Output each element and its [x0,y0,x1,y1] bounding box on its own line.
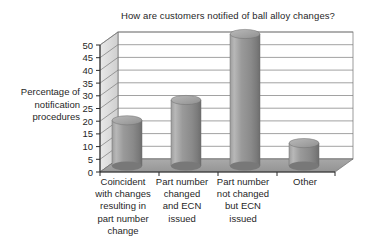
y-tick-marks [96,45,100,172]
x-category-label-other: Other [266,176,344,188]
y-tick-label: 5 [88,154,93,165]
y-tick-label: 25 [82,103,93,114]
bar-part-number-not-changed-but-ecn-issued[interactable] [230,29,260,170]
cat-line: issued [204,213,282,225]
bar-other[interactable] [289,139,319,171]
chart-container: How are customers notified of ball alloy… [0,0,368,248]
y-tick-label: 15 [82,128,93,139]
y-tick-labels: 50 45 40 35 30 25 20 15 10 5 0 [82,40,93,178]
y-tick-label: 20 [82,116,93,127]
y-tick-label: 10 [82,141,93,152]
x-axis-category-labels: Coincident with changes resulting in par… [88,176,368,248]
bar-coincident-with-changes[interactable] [112,116,142,171]
y-tick-label: 30 [82,90,93,101]
cat-line: change [83,225,163,237]
cat-line: but ECN [204,200,282,212]
bar-part-number-changed-and-ecn-issued[interactable] [171,95,201,170]
y-tick-label: 40 [82,65,93,76]
y-tick-label: 35 [82,78,93,89]
y-tick-label: 50 [82,40,93,51]
y-tick-label: 45 [82,52,93,63]
cat-line: not changed [204,188,282,200]
cat-line: Other [266,176,344,188]
